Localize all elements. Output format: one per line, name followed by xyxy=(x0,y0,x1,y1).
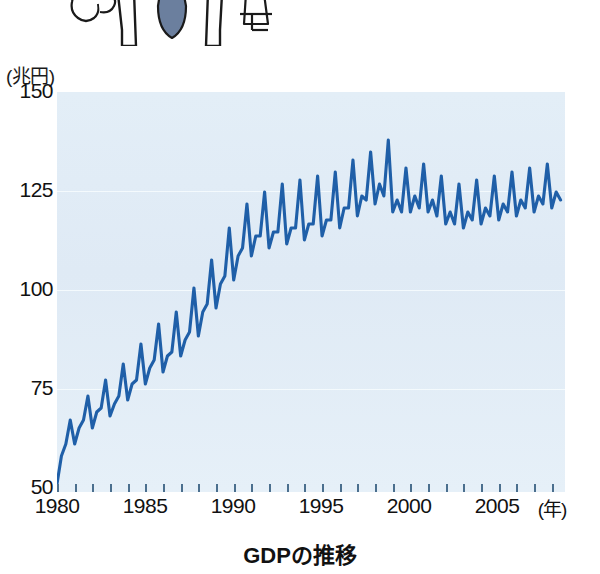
x-tick-1988 xyxy=(198,484,200,492)
x-tick-1996 xyxy=(340,484,342,492)
x-axis-labels: 1980 1985 1990 1995 2000 2005 xyxy=(0,494,600,522)
x-tick-2005 xyxy=(499,484,501,492)
x-tick-1980 xyxy=(57,484,59,492)
x-tick-2000 xyxy=(410,484,412,492)
y-axis: 150 125 100 75 50 xyxy=(0,92,53,492)
x-tick-2001 xyxy=(428,484,430,492)
x-tick-1989 xyxy=(216,484,218,492)
chart-title: GDPの推移 xyxy=(0,537,600,569)
x-tick-label-1985: 1985 xyxy=(123,494,168,518)
x-tick-1987 xyxy=(181,484,183,492)
x-tick-2002 xyxy=(446,484,448,492)
x-tick-1994 xyxy=(304,484,306,492)
x-tick-2006 xyxy=(516,484,518,492)
necktie-icon xyxy=(158,0,186,38)
x-tick-1984 xyxy=(128,484,130,492)
businessman-shirt-tie-illustration xyxy=(0,0,600,46)
x-tick-1983 xyxy=(110,484,112,492)
y-tick-label-100: 100 xyxy=(1,277,53,301)
x-tick-2008 xyxy=(552,484,554,492)
x-tick-label-2000: 2000 xyxy=(387,494,432,518)
x-tick-label-1995: 1995 xyxy=(299,494,344,518)
right-cuff-icon xyxy=(240,0,272,30)
x-tick-1986 xyxy=(163,484,165,492)
left-hand-icon xyxy=(72,0,116,21)
x-tick-label-2005: 2005 xyxy=(475,494,520,518)
x-tick-label-1980: 1980 xyxy=(35,494,80,518)
x-tick-2004 xyxy=(481,484,483,492)
x-tick-label-1990: 1990 xyxy=(211,494,256,518)
y-tick-label-125: 125 xyxy=(1,178,53,202)
x-tick-1998 xyxy=(375,484,377,492)
y-tick-label-150: 150 xyxy=(1,79,53,103)
gdp-line-series xyxy=(57,92,565,492)
x-tick-1993 xyxy=(287,484,289,492)
x-tick-2003 xyxy=(463,484,465,492)
x-tick-2007 xyxy=(534,484,536,492)
x-tick-1995 xyxy=(322,484,324,492)
x-tick-1982 xyxy=(92,484,94,492)
x-tick-1999 xyxy=(393,484,395,492)
chart-plot-area xyxy=(57,92,565,492)
x-tick-1997 xyxy=(357,484,359,492)
x-axis-unit-label: (年) xyxy=(538,494,567,521)
x-tick-1990 xyxy=(234,484,236,492)
x-tick-1985 xyxy=(145,484,147,492)
x-tick-1981 xyxy=(75,484,77,492)
x-tick-1992 xyxy=(269,484,271,492)
x-axis-ticks xyxy=(57,484,565,493)
x-tick-1991 xyxy=(251,484,253,492)
y-tick-label-75: 75 xyxy=(1,376,53,400)
